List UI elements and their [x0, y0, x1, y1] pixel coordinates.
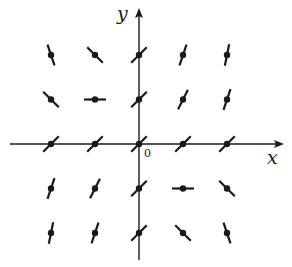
grid-point-dot [92, 52, 98, 58]
grid-point-dot [48, 230, 54, 236]
grid-point-dot [224, 230, 230, 236]
grid-point-dot [48, 52, 54, 58]
grid-point-dot [92, 96, 98, 102]
grid-point-dot [224, 52, 230, 58]
grid-point-dot [180, 185, 186, 191]
grid-point-dot [136, 185, 142, 191]
grid-point-dot [92, 185, 98, 191]
grid-point-dot [136, 52, 142, 58]
grid-point-dot [92, 230, 98, 236]
grid-point-dot [48, 141, 54, 147]
slope-field-diagram: y x 0 [0, 0, 292, 267]
grid-point-dot [224, 185, 230, 191]
origin-label: 0 [144, 148, 151, 159]
grid-point-dot [180, 96, 186, 102]
grid-point-dot [180, 141, 186, 147]
grid-point-dot [180, 230, 186, 236]
grid-point-dot [136, 96, 142, 102]
y-axis-label: y [117, 4, 128, 23]
grid-point-dot [180, 52, 186, 58]
grid-point-dot [48, 96, 54, 102]
x-axis-label: x [267, 148, 278, 167]
grid-point-dot [136, 141, 142, 147]
grid-point-dot [224, 96, 230, 102]
grid-point-dot [136, 230, 142, 236]
grid-point-dot [48, 185, 54, 191]
grid-point-dot [224, 141, 230, 147]
grid-point-dot [92, 141, 98, 147]
slope-field-plot [0, 0, 292, 267]
